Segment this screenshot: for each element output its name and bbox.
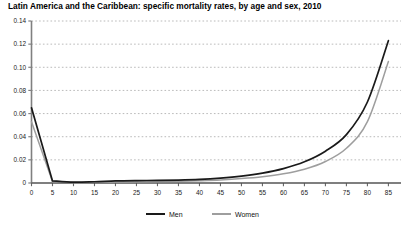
y-axis-tick-label: 0.14 [14,17,27,24]
x-axis-tick-label: 45 [217,189,225,196]
legend-label-men: Men [169,211,183,218]
x-axis-tick-label: 5 [51,189,55,196]
y-axis-tick-label: 0.12 [14,40,27,47]
x-axis-tick-label: 50 [238,189,246,196]
x-axis-tick-label: 80 [364,189,372,196]
series-line-women [32,62,389,183]
y-axis-ticks-group: 00.020.040.060.080.100.120.14 [14,17,32,186]
x-axis-tick-label: 15 [91,189,99,196]
x-axis-tick-label: 55 [259,189,267,196]
x-axis-tick-label: 85 [385,189,393,196]
chart-legend: Men Women [146,211,259,218]
x-axis-tick-label: 0 [30,189,34,196]
x-axis-tick-label: 65 [301,189,309,196]
x-axis-tick-label: 25 [133,189,141,196]
series-line-men [32,41,389,183]
y-axis-tick-label: 0.06 [14,110,27,117]
y-axis-tick-label: 0.08 [14,87,27,94]
x-axis-tick-label: 60 [280,189,288,196]
y-axis-tick-label: 0.04 [14,133,27,140]
x-axis-tick-label: 40 [196,189,204,196]
chart-page: Latin America and the Caribbean: specifi… [0,0,407,227]
x-axis-tick-label: 30 [154,189,162,196]
chart-plot-area: 00.020.040.060.080.100.120.14 0510152025… [0,0,407,227]
x-axis-tick-label: 35 [175,189,183,196]
x-axis-tick-label: 70 [322,189,330,196]
y-axis-tick-label: 0.10 [14,64,27,71]
x-axis-tick-label: 10 [70,189,78,196]
mortality-line-chart: 00.020.040.060.080.100.120.14 0510152025… [0,0,407,227]
gridlines-group [32,21,402,160]
y-axis-tick-label: 0.02 [14,156,27,163]
x-axis-tick-label: 20 [112,189,120,196]
legend-label-women: Women [235,211,259,218]
x-axis-ticks-group: 0510152025303540455055606570758085 [30,183,393,196]
y-axis-tick-label: 0 [22,179,26,186]
x-axis-tick-label: 75 [343,189,351,196]
